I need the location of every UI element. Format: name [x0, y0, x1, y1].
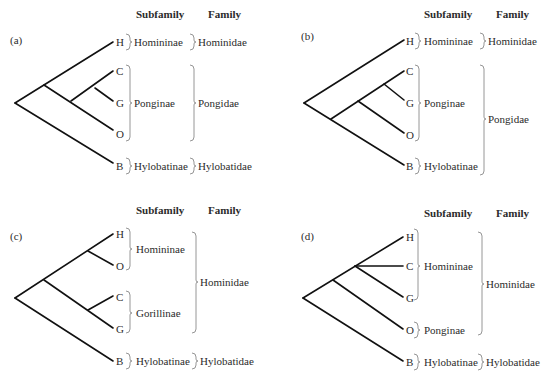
family-header: Family: [496, 207, 529, 219]
family-label: Hominidae: [198, 36, 247, 48]
brace: [192, 232, 198, 333]
subfamily-label: Ponginae: [134, 97, 175, 109]
brace: [415, 33, 421, 49]
family-label: Hylobatidae: [200, 355, 254, 367]
subfamily-label: Gorillinae: [136, 307, 181, 319]
tip-label: G: [116, 323, 124, 335]
panel-label: (a): [10, 34, 23, 47]
subfamily-label: Homininae: [424, 35, 473, 47]
tip-label: H: [406, 35, 414, 47]
tip-label: O: [406, 324, 414, 336]
brace: [126, 34, 132, 50]
tree: [15, 234, 113, 361]
panel-d: (d) Subfamily Family H C G O B Homininae…: [301, 207, 540, 370]
tip-label: C: [406, 65, 413, 77]
brace: [415, 65, 421, 141]
subfamily-header: Subfamily: [424, 207, 473, 219]
brace: [126, 353, 132, 369]
brace: [480, 65, 486, 175]
tree: [303, 237, 403, 361]
subfamily-header: Subfamily: [424, 8, 473, 20]
brace: [190, 34, 196, 50]
panel-c: (c) Subfamily Family H O C G B Homininae…: [10, 204, 254, 369]
tip-label: C: [116, 291, 123, 303]
tip-label: B: [116, 160, 123, 172]
brace: [126, 291, 132, 333]
tip-label: B: [406, 356, 413, 368]
family-label: Hylobatidae: [486, 356, 540, 368]
tip-label: O: [406, 129, 414, 141]
brace: [415, 158, 421, 174]
subfamily-label: Ponginae: [424, 97, 465, 109]
tip-label: H: [116, 36, 124, 48]
brace: [192, 353, 198, 369]
family-label: Hylobatidae: [198, 160, 252, 172]
phylogeny-figure: (a) Subfamily Family H C G O B Homininae…: [0, 0, 549, 389]
tip-label: B: [116, 355, 123, 367]
tip-label: H: [406, 231, 414, 243]
brace: [414, 322, 420, 338]
brace: [126, 228, 132, 270]
family-header: Family: [208, 204, 241, 216]
panel-label: (c): [10, 230, 23, 243]
panel-label: (b): [301, 30, 314, 43]
family-label: Pongidae: [488, 113, 529, 125]
tip-label: G: [406, 292, 414, 304]
brace: [478, 354, 484, 370]
subfamily-label: Hylobatinae: [424, 356, 478, 368]
panel-a: (a) Subfamily Family H C G O B Homininae…: [10, 8, 252, 174]
panel-label: (d): [301, 230, 314, 243]
tip-label: C: [116, 65, 123, 77]
tip-label: B: [406, 160, 413, 172]
tip-label: O: [116, 260, 124, 272]
brace: [190, 65, 196, 141]
family-label: Pongidae: [198, 97, 239, 109]
tree: [15, 42, 113, 163]
brace: [190, 158, 196, 174]
subfamily-header: Subfamily: [136, 204, 185, 216]
subfamily-label: Hylobatinae: [134, 160, 188, 172]
tip-label: G: [406, 97, 414, 109]
family-label: Hominidae: [200, 276, 249, 288]
brace: [126, 158, 132, 174]
brace: [478, 232, 484, 335]
subfamily-label: Hylobatinae: [136, 355, 190, 367]
brace: [414, 354, 420, 370]
brace: [480, 33, 486, 49]
family-label: Hominidae: [488, 35, 537, 47]
panel-b: (b) Subfamily Family H C G O B Homininae…: [301, 8, 537, 175]
family-header: Family: [496, 8, 529, 20]
brace: [126, 65, 132, 141]
tip-label: C: [406, 260, 413, 272]
tree: [304, 40, 404, 165]
tip-label: H: [116, 228, 124, 240]
subfamily-label: Ponginae: [424, 324, 465, 336]
subfamily-label: Hylobatinae: [424, 160, 478, 172]
subfamily-header: Subfamily: [136, 8, 185, 20]
family-header: Family: [208, 8, 241, 20]
subfamily-label: Homininae: [134, 36, 183, 48]
subfamily-label: Homininae: [424, 260, 473, 272]
tip-label: G: [116, 97, 124, 109]
subfamily-label: Homininae: [136, 243, 185, 255]
brace: [414, 229, 420, 300]
family-label: Hominidae: [486, 278, 535, 290]
tip-label: O: [116, 128, 124, 140]
